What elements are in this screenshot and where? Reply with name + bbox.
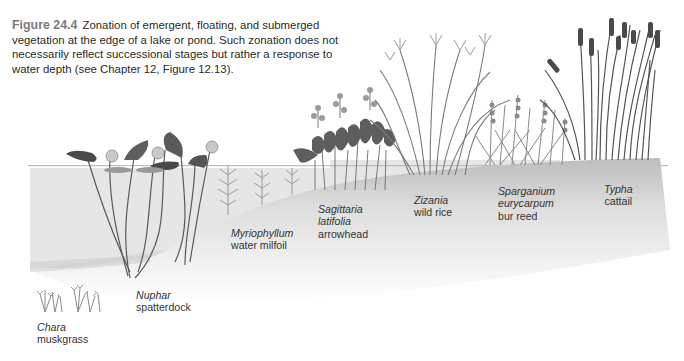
- common-name: arrowhead: [318, 228, 368, 240]
- common-name: bur reed: [498, 210, 555, 222]
- sparganium-bur-reed-plant: [475, 95, 568, 165]
- scientific-name: Nuphar: [136, 289, 191, 301]
- label-sparganium: Sparganium eurycarpum bur reed: [498, 185, 555, 222]
- zizania-wild-rice-plant: [370, 33, 510, 175]
- common-name: muskgrass: [37, 333, 88, 345]
- common-name: wild rice: [414, 206, 452, 218]
- common-name: spatterdock: [136, 301, 191, 313]
- typha-cattail-plant: [540, 18, 660, 160]
- label-chara: Chara muskgrass: [37, 321, 88, 346]
- scientific-name: Myriophyllum: [231, 227, 293, 239]
- label-zizania: Zizania wild rice: [414, 194, 452, 219]
- scientific-name: Typha: [604, 183, 633, 195]
- scientific-name-species: eurycarpum: [498, 197, 555, 209]
- figure-caption: Figure 24.4Zonation of emergent, floatin…: [12, 18, 352, 76]
- figure-number: Figure 24.4: [12, 18, 77, 32]
- scientific-name: Sparganium: [498, 185, 555, 197]
- common-name: water milfoil: [231, 239, 293, 251]
- scientific-name: Zizania: [414, 194, 452, 206]
- label-typha: Typha cattail: [604, 183, 633, 208]
- label-nuphar: Nuphar spatterdock: [136, 289, 191, 314]
- scientific-name: Sagittaria: [318, 203, 368, 215]
- scientific-name: Chara: [37, 321, 88, 333]
- scientific-name-species: latifolia: [318, 215, 368, 227]
- label-sagittaria: Sagittaria latifolia arrowhead: [318, 203, 368, 240]
- label-myriophyllum: Myriophyllum water milfoil: [231, 227, 293, 252]
- common-name: cattail: [604, 195, 633, 207]
